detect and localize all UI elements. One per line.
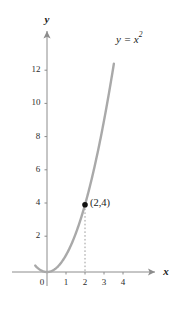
y-tick-label: 10: [32, 97, 42, 107]
figure-background: [0, 0, 177, 310]
curve-equation-label: y = x2: [115, 30, 143, 44]
curve-equation-exponent: 2: [139, 30, 143, 39]
y-tick-label: 6: [36, 164, 41, 174]
function-graph-figure: 12 10 8 6 4 2 0 1 2 3 4 (2,4) y x y = x2: [0, 0, 177, 310]
x-tick-label: 2: [83, 277, 88, 287]
y-tick-label: 12: [32, 64, 41, 74]
x-tick-label: 4: [121, 277, 126, 287]
x-tick-label: 3: [102, 277, 107, 287]
x-tick-label: 1: [64, 277, 69, 287]
y-tick-label: 2: [36, 230, 41, 240]
y-tick-label: 4: [36, 197, 41, 207]
curve-equation-base: y = x: [115, 33, 139, 45]
point-marker-2-4: [82, 202, 88, 208]
y-axis-label: y: [43, 13, 50, 25]
y-tick-label: 8: [36, 131, 41, 141]
x-axis-label: x: [162, 265, 169, 277]
point-label-2-4: (2,4): [90, 197, 111, 209]
x-tick-label-origin: 0: [40, 277, 45, 287]
